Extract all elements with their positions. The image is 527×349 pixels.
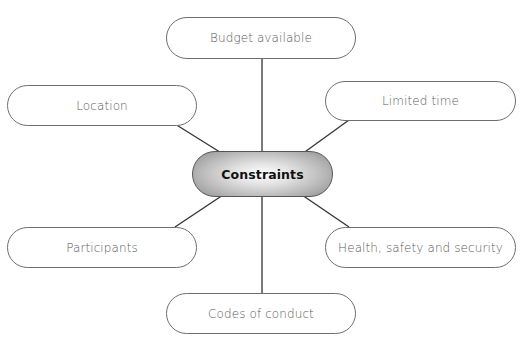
- node-limited-time: Limited time: [325, 81, 516, 121]
- center-label: Constraints: [221, 167, 303, 182]
- node-label: Budget available: [210, 31, 312, 45]
- node-health-safety-security: Health, safety and security: [325, 227, 516, 268]
- node-label: Location: [76, 99, 128, 113]
- edge-center-to-health: [302, 195, 349, 227]
- node-label: Health, safety and security: [338, 241, 503, 255]
- node-budget-available: Budget available: [166, 17, 356, 59]
- node-label: Codes of conduct: [208, 307, 314, 321]
- edge-center-to-limited-time: [302, 120, 349, 154]
- node-codes-of-conduct: Codes of conduct: [166, 293, 356, 334]
- edge-center-to-participants: [175, 195, 223, 227]
- node-label: Limited time: [382, 94, 459, 108]
- node-label: Participants: [66, 241, 138, 255]
- edge-center-to-location: [175, 124, 223, 154]
- node-center-constraints: Constraints: [192, 151, 333, 197]
- node-location: Location: [7, 85, 197, 126]
- node-participants: Participants: [7, 227, 197, 268]
